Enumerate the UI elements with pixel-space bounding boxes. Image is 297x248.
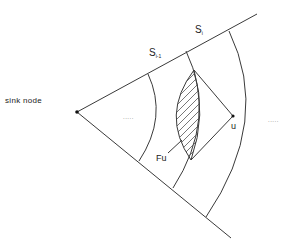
lower-boundary-ray xyxy=(77,112,231,238)
node-u-label: u xyxy=(231,121,236,131)
ellipsis-inner: ..... xyxy=(123,114,134,120)
node-u-dot xyxy=(231,114,234,117)
upper-boundary-ray xyxy=(77,14,257,112)
s-i-minus-1-label: Si-1 xyxy=(149,47,161,59)
ellipsis-outer: ..... xyxy=(268,117,279,123)
fu-label: Fu xyxy=(156,153,167,163)
sector-diagram: sink node Si-1 Si Fu u ..... ..... xyxy=(0,0,297,248)
sink-node-dot xyxy=(75,110,79,114)
sink-node-label: sink node xyxy=(5,96,42,105)
arc-inner xyxy=(139,74,156,161)
fu-leader-line xyxy=(168,140,182,153)
forwarding-area-fu xyxy=(150,20,220,195)
s-i-label: Si xyxy=(195,24,203,36)
